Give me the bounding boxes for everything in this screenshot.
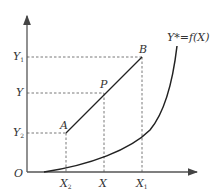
x2-label: X2 [59,177,72,190]
point-b-label: B [138,43,147,56]
curve-label: Y*=f(X) [167,31,209,44]
point-a-label: A [59,119,68,132]
curve-f [44,46,177,172]
point-p-label: P [99,78,108,91]
origin-label: O [14,167,23,180]
y2-label: Y2 [13,126,24,139]
y1-label: Y1 [13,50,24,63]
diagram: O Y1 Y Y2 X2 X X1 A P B Y*=f(X) [0,0,220,195]
x1-label: X1 [135,177,148,190]
x-label: X [98,177,108,190]
y-label: Y [16,86,25,99]
